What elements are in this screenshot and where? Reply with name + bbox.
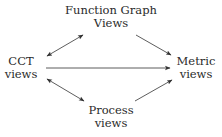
node-process-views: Process views: [88, 104, 133, 130]
edge-process-metric: [135, 80, 172, 101]
node-function-graph-views: Function Graph Views: [65, 4, 157, 30]
diagram-canvas: Function Graph Views CCT views Metric vi…: [0, 0, 222, 137]
edge-cct-function-graph: [47, 35, 83, 56]
node-metric-views: Metric views: [177, 55, 216, 81]
node-cct-views: CCT views: [5, 55, 38, 81]
node-label-line: views: [88, 117, 133, 130]
node-label-line: views: [5, 68, 38, 81]
edge-cct-process: [47, 79, 84, 101]
node-label-line: Views: [65, 17, 157, 30]
edge-function-graph-metric: [136, 35, 171, 55]
node-label-line: views: [177, 68, 216, 81]
